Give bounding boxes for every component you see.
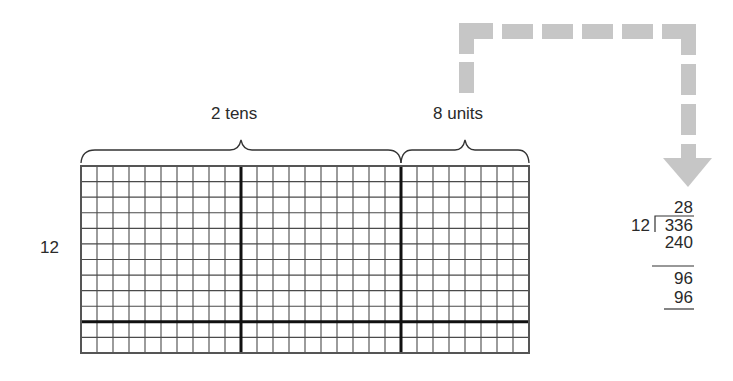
quotient: 28: [633, 199, 693, 217]
division-lines: [0, 0, 733, 381]
step1-product: 240: [633, 234, 693, 252]
step1-remainder: 96: [633, 270, 693, 288]
step2-product: 96: [633, 289, 693, 307]
